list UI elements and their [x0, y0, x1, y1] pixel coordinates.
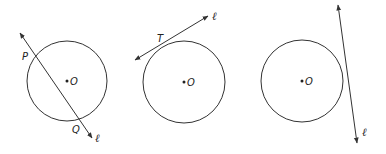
- secant-line: [20, 33, 92, 138]
- center-point: [301, 80, 304, 83]
- panel-secant: O ℓ P Q: [20, 33, 107, 145]
- external-line: [338, 5, 357, 143]
- panel-no-intersection: O ℓ: [261, 5, 367, 143]
- point-label-t: T: [157, 33, 164, 44]
- center-label: O: [187, 77, 195, 88]
- line-label: ℓ: [212, 10, 217, 23]
- center-point: [183, 81, 186, 84]
- line-label: ℓ: [362, 126, 367, 139]
- center-label: O: [305, 76, 313, 87]
- point-label-p: P: [22, 51, 29, 62]
- line-label: ℓ: [95, 132, 100, 145]
- tangent-line: [135, 16, 208, 60]
- panel-tangent: O ℓ T: [135, 10, 225, 123]
- center-point: [66, 80, 69, 83]
- diagram-canvas: O ℓ P Q O ℓ T O ℓ: [0, 0, 386, 154]
- point-label-q: Q: [72, 124, 80, 135]
- center-label: O: [70, 76, 78, 87]
